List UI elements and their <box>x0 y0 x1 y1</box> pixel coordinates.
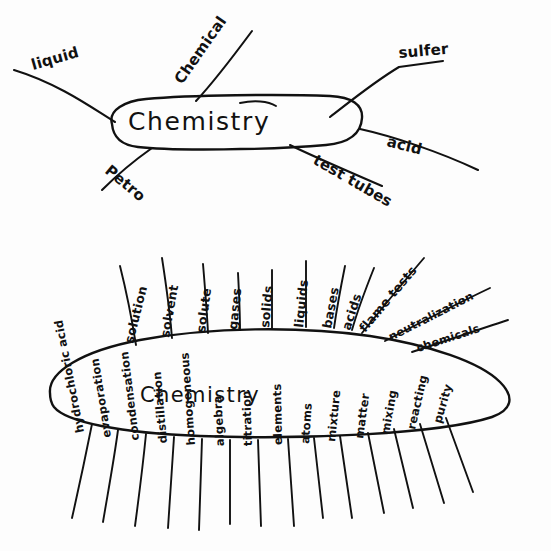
branch-line-elements <box>288 439 294 526</box>
branch-label-liquids: liquids <box>291 279 311 329</box>
branch-line-purity <box>446 418 473 492</box>
mind-map-canvas: Chemistry liquid Chemical sulfer acid te… <box>0 0 551 551</box>
branch-label-reacting: reacting <box>404 373 430 430</box>
branch-label-test-tubes: test tubes <box>310 151 396 211</box>
branch-line-sulfer <box>330 61 443 117</box>
bottom-mind-map: Chemistry solution solvent solute gases … <box>50 258 510 530</box>
top-bubble-inner-squiggle <box>240 101 276 106</box>
branch-line-matter <box>368 433 384 513</box>
branch-label-matter: matter <box>352 392 372 439</box>
branch-label-solvent: solvent <box>157 284 181 339</box>
branch-label-gases: gases <box>225 287 244 330</box>
branch-label-chemical: Chemical <box>171 13 231 88</box>
branch-line-mixing <box>394 429 413 508</box>
branch-line-homogeneous <box>199 439 202 530</box>
branch-label-titration: titration <box>239 390 255 446</box>
branch-line-mixture <box>340 436 352 518</box>
mind-map-drawing: Chemistry liquid Chemical sulfer acid te… <box>0 0 551 551</box>
branch-line-evaporation <box>103 430 118 522</box>
branch-label-bases: bases <box>319 286 342 330</box>
branch-line-distillation <box>168 437 174 528</box>
branch-line-reacting <box>420 424 444 503</box>
branch-line-atoms <box>314 438 323 518</box>
branch-line-hydrochloric-acid <box>72 424 92 518</box>
top-mind-map: Chemistry liquid Chemical sulfer acid te… <box>14 13 478 211</box>
branch-label-mixing: mixing <box>378 389 400 436</box>
branch-label-algebra: algebra <box>210 395 227 446</box>
branch-label-elements: elements <box>270 384 285 446</box>
branch-label-mixture: mixture <box>324 389 343 442</box>
top-center-label: Chemistry <box>128 107 270 136</box>
branch-label-solute: solute <box>193 287 214 334</box>
branch-label-liquid: liquid <box>29 43 81 74</box>
branch-label-acid: acid <box>385 132 424 158</box>
branch-line-liquid <box>14 70 115 122</box>
branch-label-atoms: atoms <box>298 402 315 444</box>
branch-line-titration <box>258 440 261 526</box>
branch-label-purity: purity <box>430 382 455 425</box>
branch-label-sulfer: sulfer <box>398 40 450 62</box>
branch-label-condensation: condensation <box>117 351 142 442</box>
branch-line-condensation <box>135 434 146 526</box>
